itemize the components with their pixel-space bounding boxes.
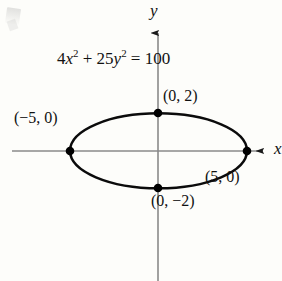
equation-var-y: y xyxy=(114,49,122,68)
point-label-left: (−5, 0) xyxy=(14,110,58,126)
equation-rhs: 100 xyxy=(145,49,171,68)
point-marker-left xyxy=(66,147,75,156)
coordinate-plot xyxy=(0,0,282,281)
equation-exponent-y: 2 xyxy=(121,47,126,59)
point-label-top: (0, 2) xyxy=(163,88,198,104)
x-axis-label: x xyxy=(274,140,282,157)
equation-exponent-x: 2 xyxy=(73,47,78,59)
equation-equals: = xyxy=(131,49,141,68)
equation-plus: + xyxy=(83,49,93,68)
point-marker-bottom xyxy=(154,184,163,193)
point-marker-top xyxy=(154,109,163,118)
equation-coef-a: 4 xyxy=(57,49,66,68)
y-axis-label: y xyxy=(150,2,158,19)
point-label-right: (5, 0) xyxy=(205,169,240,185)
equation-label: 4x2 + 25y2 = 100 xyxy=(57,50,170,67)
point-label-bottom: (0, −2) xyxy=(151,193,195,209)
equation-coef-b: 25 xyxy=(97,49,114,68)
point-marker-right xyxy=(243,147,252,156)
equation-var-x: x xyxy=(66,49,74,68)
ellipse-figure: y x 4x2 + 25y2 = 100 (0, 2) (−5, 0) (0, … xyxy=(0,0,282,281)
